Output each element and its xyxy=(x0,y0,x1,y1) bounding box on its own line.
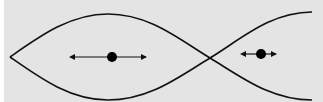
right-particle xyxy=(256,49,266,59)
standing-wave-diagram xyxy=(0,0,323,102)
wave-svg xyxy=(0,0,323,102)
lower-envelope-curve xyxy=(10,12,312,100)
left-particle xyxy=(107,52,117,62)
